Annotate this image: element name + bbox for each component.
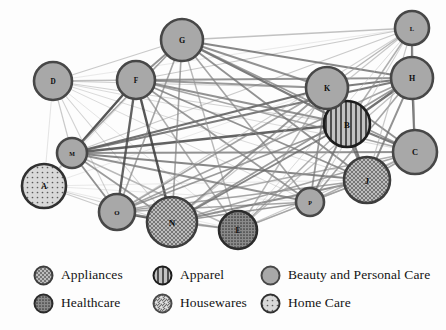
legend-label: Healthcare [61, 296, 120, 310]
legend-swatch-icon [33, 265, 54, 286]
node-label: D [50, 78, 55, 86]
graph-node-k[interactable]: K [306, 67, 348, 109]
network-graph[interactable]: ABCDEFGHJKLMNOP [0, 0, 446, 262]
legend-row: AppliancesApparelBeauty and Personal Car… [0, 262, 446, 288]
node-label: O [114, 209, 119, 216]
legend-swatch-icon [152, 265, 173, 286]
graph-node-g[interactable]: G [161, 19, 203, 61]
node-label: A [41, 182, 47, 191]
graph-node-l[interactable]: L [395, 11, 429, 45]
node-label: P [308, 200, 312, 206]
legend-swatch-icon [33, 293, 54, 314]
network-figure: ABCDEFGHJKLMNOP AppliancesApparelBeauty … [0, 0, 446, 330]
legend-label: Home Care [288, 296, 351, 310]
node-layer[interactable]: ABCDEFGHJKLMNOP [22, 11, 437, 249]
node-label: B [344, 120, 350, 130]
legend-label: Appliances [61, 268, 123, 282]
legend-item-appliances[interactable]: Appliances [33, 262, 123, 288]
graph-node-c[interactable]: C [393, 130, 437, 174]
legend-item-home-care[interactable]: Home Care [260, 290, 351, 316]
graph-node-n[interactable]: N [147, 197, 197, 247]
node-label: K [324, 84, 331, 93]
node-label: M [69, 151, 75, 157]
legend-swatch-icon [260, 293, 281, 314]
graph-edge [53, 28, 412, 81]
node-label: H [409, 74, 416, 83]
legend-item-housewares[interactable]: Housewares [152, 290, 247, 316]
graph-node-j[interactable]: J [344, 157, 390, 203]
graph-edge [182, 40, 412, 78]
graph-edge [72, 152, 415, 153]
legend-label: Beauty and Personal Care [288, 268, 430, 282]
graph-node-p[interactable]: P [296, 188, 324, 216]
graph-node-a[interactable]: A [22, 164, 66, 208]
legend-item-beauty-personal-care[interactable]: Beauty and Personal Care [260, 262, 430, 288]
legend-swatch-icon [260, 265, 281, 286]
legend-swatch-icon [152, 293, 173, 314]
node-label: C [412, 148, 418, 157]
graph-node-f[interactable]: F [117, 61, 155, 99]
legend-label: Housewares [180, 296, 247, 310]
node-label: N [169, 218, 176, 228]
legend: AppliancesApparelBeauty and Personal Car… [0, 258, 446, 330]
node-label: J [365, 176, 370, 186]
graph-node-e[interactable]: E [219, 211, 257, 249]
graph-edge [136, 78, 412, 80]
legend-item-apparel[interactable]: Apparel [152, 262, 224, 288]
graph-node-d[interactable]: D [34, 62, 72, 100]
node-label: L [410, 25, 415, 32]
node-label: F [134, 77, 139, 85]
graph-node-o[interactable]: O [99, 194, 135, 230]
legend-item-healthcare[interactable]: Healthcare [33, 290, 120, 316]
node-label: E [236, 227, 241, 235]
legend-row: HealthcareHousewaresHome Care [0, 290, 446, 316]
legend-label: Apparel [180, 268, 224, 282]
graph-node-h[interactable]: H [391, 57, 433, 99]
graph-edge [182, 40, 327, 88]
graph-node-m[interactable]: M [57, 138, 87, 168]
node-label: G [179, 36, 185, 45]
